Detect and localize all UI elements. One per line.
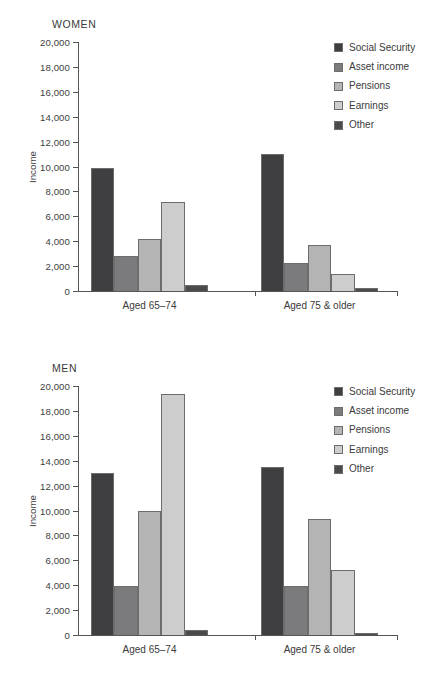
y-tick-mark	[73, 117, 78, 118]
legend-item-label: Pensions	[349, 81, 390, 91]
y-tick-mark	[73, 216, 78, 217]
y-tick-mark	[73, 167, 78, 168]
legend-item[interactable]: Other	[334, 460, 440, 479]
legend-item-label: Asset income	[349, 406, 409, 416]
legend-swatch-icon	[334, 426, 343, 435]
legend-swatch-icon	[334, 121, 343, 130]
y-tick-mark	[73, 511, 78, 512]
y-tick-mark	[73, 610, 78, 611]
y-tick-label: 20,000	[40, 381, 70, 392]
y-axis-title: Income	[27, 494, 38, 526]
bar	[138, 239, 161, 291]
x-tick-mark	[255, 291, 256, 296]
bar	[185, 285, 208, 291]
legend-item[interactable]: Earnings	[334, 96, 440, 115]
legend-swatch-icon	[334, 407, 343, 416]
legend-item-label: Social Security	[349, 387, 415, 397]
panel-title-women: WOMEN	[52, 18, 96, 30]
legend-item[interactable]: Asset income	[334, 401, 440, 420]
legend-item[interactable]: Social Security	[334, 38, 440, 57]
y-tick-mark	[73, 386, 78, 387]
bar	[355, 633, 378, 635]
bar	[138, 511, 161, 636]
bar	[308, 519, 331, 635]
legend-item-label: Pensions	[349, 425, 390, 435]
legend-item[interactable]: Social Security	[334, 382, 440, 401]
legend-item[interactable]: Other	[334, 116, 440, 135]
x-axis-group-label: Aged 75 & older	[284, 644, 356, 655]
legend-item[interactable]: Pensions	[334, 77, 440, 96]
y-tick-mark	[73, 42, 78, 43]
x-axis-group-label: Aged 65–74	[123, 644, 177, 655]
y-tick-mark	[73, 486, 78, 487]
y-tick-label: 6,000	[45, 211, 70, 222]
legend-item-label: Other	[349, 464, 374, 474]
y-tick-label: 0	[65, 630, 70, 641]
legend-item[interactable]: Earnings	[334, 440, 440, 459]
y-tick-mark	[73, 67, 78, 68]
y-tick-mark	[73, 266, 78, 267]
panel-title-men: MEN	[52, 362, 77, 374]
x-axis-end-tick	[397, 291, 398, 296]
bar	[261, 467, 284, 635]
legend-item[interactable]: Pensions	[334, 421, 440, 440]
y-tick-label: 8,000	[45, 530, 70, 541]
y-tick-mark	[73, 585, 78, 586]
legend-swatch-icon	[334, 82, 343, 91]
x-axis-end-tick	[397, 635, 398, 640]
y-tick-label: 16,000	[40, 86, 70, 97]
legend-item-label: Social Security	[349, 43, 415, 53]
y-tick-label: 8,000	[45, 186, 70, 197]
chart-panel-men: MEN Income 02,0004,0006,0008,00010,00012…	[0, 352, 442, 672]
legend-swatch-icon	[334, 465, 343, 474]
y-tick-mark	[73, 142, 78, 143]
y-axis-line	[78, 386, 79, 635]
legend-item-label: Other	[349, 120, 374, 130]
y-tick-label: 10,000	[40, 505, 70, 516]
x-tick-mark	[255, 635, 256, 640]
y-tick-mark	[73, 436, 78, 437]
y-tick-label: 4,000	[45, 580, 70, 591]
bar	[261, 154, 284, 291]
legend-swatch-icon	[334, 63, 343, 72]
bar	[331, 570, 354, 635]
y-tick-label: 2,000	[45, 261, 70, 272]
legend-swatch-icon	[334, 445, 343, 454]
y-tick-mark	[73, 461, 78, 462]
y-tick-label: 12,000	[40, 136, 70, 147]
bar	[284, 586, 307, 635]
bar	[114, 586, 137, 635]
legend-item-label: Asset income	[349, 62, 409, 72]
y-axis-title: Income	[27, 150, 38, 182]
y-tick-label: 4,000	[45, 236, 70, 247]
legend-swatch-icon	[334, 387, 343, 396]
bar	[284, 263, 307, 291]
x-axis-group-label: Aged 65–74	[123, 300, 177, 311]
y-tick-label: 14,000	[40, 455, 70, 466]
y-tick-label: 18,000	[40, 405, 70, 416]
y-tick-label: 12,000	[40, 480, 70, 491]
bar	[161, 394, 184, 635]
bar	[355, 288, 378, 291]
legend-swatch-icon	[334, 101, 343, 110]
y-tick-mark	[73, 411, 78, 412]
legend-women: Social SecurityAsset incomePensionsEarni…	[334, 38, 440, 135]
y-tick-mark	[73, 191, 78, 192]
bar	[185, 630, 208, 635]
bar	[331, 274, 354, 291]
y-tick-label: 0	[65, 286, 70, 297]
y-tick-label: 20,000	[40, 37, 70, 48]
y-tick-mark	[73, 291, 78, 292]
chart-page: WOMEN Income 02,0004,0006,0008,00010,000…	[0, 0, 442, 676]
bar	[91, 473, 114, 635]
y-tick-label: 2,000	[45, 605, 70, 616]
x-axis-line	[78, 291, 398, 292]
bar	[161, 202, 184, 291]
legend-item[interactable]: Asset income	[334, 57, 440, 76]
x-axis-group-label: Aged 75 & older	[284, 300, 356, 311]
y-tick-label: 16,000	[40, 430, 70, 441]
legend-swatch-icon	[334, 43, 343, 52]
bar	[308, 245, 331, 291]
y-tick-mark	[73, 535, 78, 536]
y-tick-label: 14,000	[40, 111, 70, 122]
